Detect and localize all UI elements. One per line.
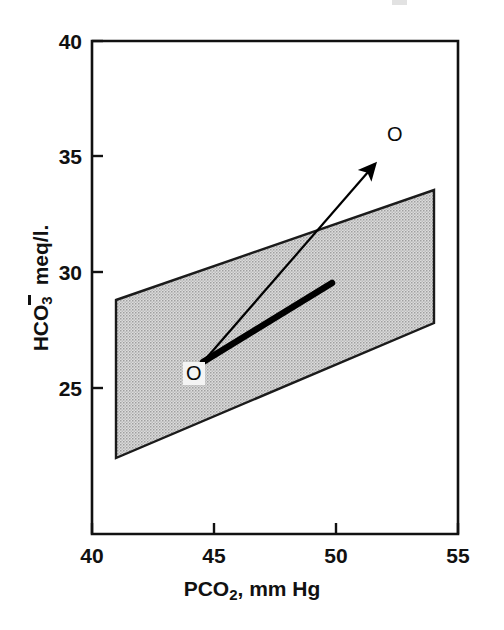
y-axis-title-subscript: 3 xyxy=(38,296,55,304)
y-tick-label-40: 40 xyxy=(40,31,82,52)
annotation-end-point-label: O xyxy=(387,124,403,144)
y-axis-title: HCO3meq/l. xyxy=(30,225,54,352)
overbar-rule xyxy=(28,295,31,304)
y-axis-title-wrapper: HCO3meq/l. xyxy=(30,138,62,438)
x-tick-label-50: 50 xyxy=(311,545,361,566)
chart-root: 40 35 30 25 40 45 50 55 PCO2, mm Hg HCO3… xyxy=(0,0,504,630)
x-tick-label-40: 40 xyxy=(67,545,117,566)
x-axis-title-subscript: 2 xyxy=(229,586,237,603)
y-axis-title-main: HCO xyxy=(29,305,52,352)
x-axis-title: PCO2, mm Hg xyxy=(0,578,504,602)
y-axis-title-units: meq/l. xyxy=(29,225,52,286)
annotation-start-point-label: O xyxy=(183,362,205,385)
x-axis-title-main: PCO xyxy=(184,577,230,600)
x-tick-label-55: 55 xyxy=(433,545,483,566)
y-axis-title-charge-overbar: 3 xyxy=(30,296,54,304)
x-axis-ticks xyxy=(92,523,458,534)
y-axis-ticks xyxy=(92,41,103,388)
scan-artifact xyxy=(392,0,407,5)
x-tick-label-45: 45 xyxy=(189,545,239,566)
shaded-region xyxy=(116,190,434,458)
chart-canvas xyxy=(0,0,504,630)
x-axis-title-units: , mm Hg xyxy=(238,577,321,600)
